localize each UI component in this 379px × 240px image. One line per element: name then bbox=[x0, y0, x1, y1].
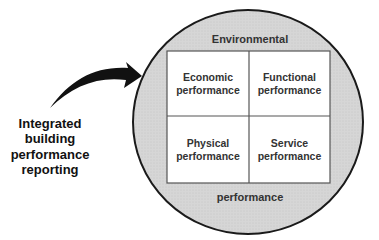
quadrant-title: Physical bbox=[176, 137, 240, 150]
quadrant-subtitle: performance bbox=[176, 84, 240, 97]
quadrant-subtitle: performance bbox=[258, 150, 322, 163]
side-label-line: reporting bbox=[4, 162, 96, 177]
side-label-line: performance bbox=[4, 147, 96, 162]
curved-arrow-icon bbox=[50, 62, 142, 108]
outer-label-top: Environmental bbox=[170, 33, 330, 46]
side-label-line: building bbox=[4, 131, 96, 146]
quadrant-subtitle: performance bbox=[258, 84, 322, 97]
quadrant-title: Economic bbox=[176, 71, 240, 84]
quadrant-functional: Functionalperformance bbox=[249, 51, 330, 116]
quadrant-physical: Physicalperformance bbox=[167, 116, 249, 183]
outer-label-bottom: performance bbox=[170, 191, 330, 204]
quadrant-title: Functional bbox=[258, 71, 322, 84]
quadrant-subtitle: performance bbox=[176, 150, 240, 163]
side-label-line: Integrated bbox=[4, 116, 96, 131]
quadrant-service: Serviceperformance bbox=[249, 116, 330, 183]
quadrant-title: Service bbox=[258, 137, 322, 150]
quadrant-economic: Economicperformance bbox=[167, 51, 249, 116]
side-label: Integrated building performance reportin… bbox=[4, 116, 96, 177]
